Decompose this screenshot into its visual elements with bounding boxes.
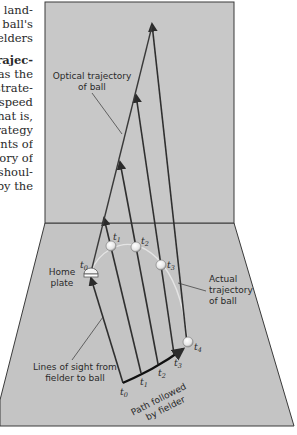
ball-icon	[131, 242, 141, 252]
actual-trajectory-label-line1: Actual	[209, 274, 237, 284]
home-plate-label-line2: plate	[51, 278, 74, 288]
vertical-image-plane	[45, 2, 234, 223]
actual-trajectory-label-line2: trajectory	[209, 285, 253, 295]
baseball-trajectory-diagram: t0 t1 t2 t3 t4 t0 t1 t2 t3 Optical traje…	[0, 0, 297, 435]
ball-icon	[156, 260, 166, 270]
actual-trajectory-label-line3: of ball	[209, 296, 237, 306]
field-floor-plane	[0, 223, 294, 426]
ball-icon	[183, 337, 193, 347]
lines-of-sight-label-line2: fielder to ball	[45, 373, 105, 383]
lines-of-sight-label-line1: Lines of sight from	[33, 362, 117, 372]
home-plate-label-line1: Home	[49, 267, 76, 277]
optical-trajectory-label-line1: Optical trajectory	[53, 71, 132, 81]
optical-trajectory-label-line2: of ball	[78, 82, 106, 92]
ball-icon	[106, 241, 116, 251]
